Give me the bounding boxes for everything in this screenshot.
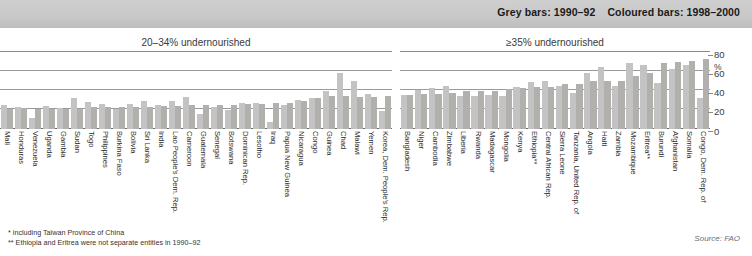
country-label: Congo, Dem. Rep. of — [696, 129, 710, 217]
country-label: Cameroon — [182, 129, 196, 217]
bar-group — [485, 52, 499, 129]
country-label: Cambodia — [428, 129, 442, 217]
country-label: Zambia — [611, 129, 625, 217]
bar-group — [597, 52, 611, 129]
bar-group — [569, 52, 583, 129]
country-label-text: Lesotho — [255, 131, 264, 158]
country-label: India — [154, 129, 168, 217]
bar-group — [555, 52, 569, 129]
bar-1998-2000 — [661, 63, 667, 129]
y-dash-20 — [708, 112, 713, 113]
country-label-text: Zimbabwe — [445, 131, 454, 166]
bar-1998-2000 — [91, 107, 97, 129]
country-label: Mongolia — [499, 129, 513, 217]
source-credit: Source: FAO — [694, 234, 740, 243]
bar-1998-2000 — [548, 87, 554, 129]
legend-bar: Grey bars: 1990–92 Coloured bars: 1998–2… — [0, 0, 752, 28]
footnote-ethiopia-eritrea: ** Ethiopia and Eritrea were not separat… — [8, 238, 201, 248]
bar-1998-2000 — [133, 107, 139, 129]
bar-1998-2000 — [77, 109, 83, 129]
y-dash-40 — [708, 93, 713, 94]
bar-group — [28, 52, 42, 129]
country-label-text: Honduras — [17, 131, 26, 164]
country-label: Togo — [84, 129, 98, 217]
country-label-text: Philippines — [101, 131, 110, 168]
y-tick-80: 80 — [714, 50, 725, 59]
country-label-text: Sierra Leone — [558, 131, 567, 174]
footnote-taiwan: * including Taiwan Province of China — [8, 228, 201, 238]
bar-1998-2000 — [534, 87, 540, 129]
country-label: Burundi — [654, 129, 668, 217]
bar-group — [654, 52, 668, 129]
plot-right — [400, 52, 710, 129]
country-label-text: Lao People's Dem. Rep. — [171, 131, 180, 213]
y-tick-40: 40 — [714, 88, 725, 97]
bar-1998-2000 — [7, 109, 13, 129]
country-label: Congo — [308, 129, 322, 217]
country-label-text: Papua New Guinea — [283, 131, 292, 197]
bar-1998-2000 — [478, 91, 484, 130]
country-label-text: Eritrea** — [642, 131, 651, 159]
bar-1998-2000 — [357, 97, 363, 129]
bar-group — [112, 52, 126, 129]
country-label-text: Niger — [417, 131, 426, 149]
bar-1998-2000 — [175, 106, 181, 129]
bar-group-container-left — [0, 52, 392, 129]
country-label-text: Afghanistan — [670, 131, 679, 171]
bar-group — [56, 52, 70, 129]
country-label: Bangladesh — [400, 129, 414, 217]
country-label-text: Burundi — [656, 131, 665, 157]
country-label-text: Togo — [87, 131, 96, 147]
bar-1998-2000 — [189, 105, 195, 129]
bar-group — [210, 52, 224, 129]
bar-1998-2000 — [147, 107, 153, 129]
country-label: Malawi — [350, 129, 364, 217]
country-label-text: Gambia — [59, 131, 68, 158]
country-label: Sri Lanka — [140, 129, 154, 217]
country-label-text: Iraq — [269, 131, 278, 144]
bar-group — [322, 52, 336, 129]
country-label-text: Zambia — [614, 131, 623, 156]
bar-group-container-right — [400, 52, 710, 129]
country-label-text: Yemen — [367, 131, 376, 154]
bar-group — [140, 52, 154, 129]
country-label-text: Mali — [3, 131, 12, 145]
bar-1998-2000 — [385, 96, 391, 129]
bar-group — [98, 52, 112, 129]
bar-group — [42, 52, 56, 129]
bar-group — [378, 52, 392, 129]
country-label: Gambia — [56, 129, 70, 217]
bar-1998-2000 — [647, 73, 653, 129]
country-label: Guinea — [322, 129, 336, 217]
bar-group — [668, 52, 682, 129]
legend-coloured-label: Coloured bars: 1998–2000 — [607, 6, 740, 18]
y-dash-80 — [708, 55, 713, 56]
country-label-text: Guinea — [325, 131, 334, 156]
country-label-text: Congo — [311, 131, 320, 153]
bar-group — [682, 52, 696, 129]
bar-1998-2000 — [315, 98, 321, 129]
country-label-text: Nicaragua — [297, 131, 306, 166]
bar-1998-2000 — [49, 109, 55, 129]
country-label: Nicaragua — [294, 129, 308, 217]
bar-1998-2000 — [105, 107, 111, 129]
country-label: Burkina Faso — [112, 129, 126, 217]
bar-group — [583, 52, 597, 129]
bar-group — [640, 52, 654, 129]
bar-1998-2000 — [217, 105, 223, 129]
bar-1998-2000 — [371, 97, 377, 129]
country-label-text: Cameroon — [185, 131, 194, 166]
country-label-text: Cambodia — [431, 131, 440, 166]
bar-group — [428, 52, 442, 129]
bar-1998-2000 — [259, 104, 265, 129]
bar-1998-2000 — [449, 93, 455, 129]
country-label-text: Guatemala — [199, 131, 208, 168]
y-dash-0 — [708, 131, 713, 132]
plot-left — [0, 52, 392, 129]
bar-group — [541, 52, 555, 129]
country-label: Liberia — [456, 129, 470, 217]
country-label: Uganda — [42, 129, 56, 217]
country-label-text: India — [157, 131, 166, 147]
bar-1998-2000 — [63, 109, 69, 129]
bar-1998-2000 — [161, 106, 167, 129]
